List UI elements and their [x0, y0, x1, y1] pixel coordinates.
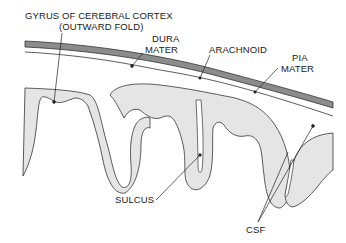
label-csf: CSF: [246, 224, 265, 235]
meninges-diagram: GYRUS OF CEREBRAL CORTEX (OUTWARD FOLD) …: [0, 0, 346, 243]
label-sulcus: SULCUS: [115, 194, 154, 205]
label-gyrus-line2: (OUTWARD FOLD): [59, 21, 143, 32]
label-dura-line2: MATER: [145, 44, 178, 55]
label-pia-line1: PIA: [292, 52, 308, 63]
label-pia-line2: MATER: [281, 63, 314, 74]
label-arachnoid: ARACHNOID: [209, 44, 267, 55]
label-gyrus-line1: GYRUS OF CEREBRAL CORTEX: [25, 10, 173, 21]
label-dura-line1: DURA: [152, 33, 180, 44]
